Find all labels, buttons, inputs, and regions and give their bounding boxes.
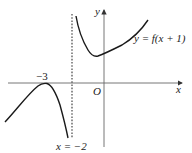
x-axis-label: x [175,83,181,95]
turning-point-label: −3 [36,70,48,82]
y-axis-label: y [94,5,100,17]
graph-canvas: y x O −3 x = −2 y = f(x + 1) [0,0,192,153]
asymptote-label: x = −2 [55,140,87,152]
left-branch-curve [5,83,68,138]
curve-label: y = f(x + 1) [133,32,186,45]
origin-label: O [93,85,101,97]
